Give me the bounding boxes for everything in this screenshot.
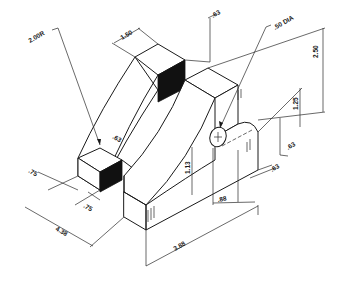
dim-top-width: 1.50 xyxy=(119,28,134,41)
dim-top-depth: .63 xyxy=(210,8,222,19)
dim-hole-diameter: .50 DIA xyxy=(272,14,295,31)
dim-front-depth-1: .75 xyxy=(28,167,40,178)
dim-overall-width: 3.88 xyxy=(172,239,187,252)
isometric-drawing: 2.00R 1.50 .63 .50 DIA 2.50 1.25 1.13 .6… xyxy=(0,0,351,285)
dim-right-offset-2: .63 xyxy=(269,162,281,173)
dim-hole-offset: .88 xyxy=(217,194,227,203)
dim-right-offset-1: .63 xyxy=(285,140,297,151)
dim-overall-depth: 4.38 xyxy=(55,225,70,238)
dim-front-depth-2: .75 xyxy=(83,202,95,213)
dim-boss-height: 1.25 xyxy=(292,97,299,110)
dim-arc-radius: 2.00R xyxy=(27,29,46,44)
dim-hole-height: 1.13 xyxy=(184,161,191,174)
dim-overall-height: 2.50 xyxy=(312,45,319,58)
